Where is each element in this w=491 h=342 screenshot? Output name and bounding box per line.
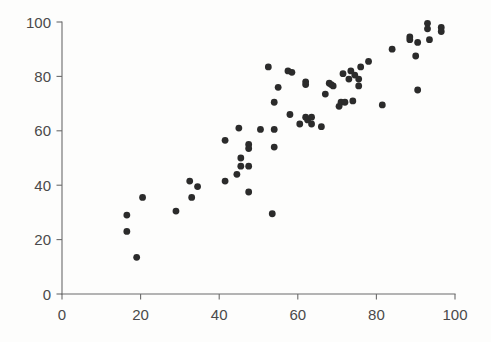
scatter-point: [222, 137, 229, 144]
scatter-point: [245, 145, 252, 152]
scatter-point: [271, 126, 278, 133]
scatter-point: [349, 97, 356, 104]
scatter-point: [265, 63, 272, 70]
scatter-point: [308, 114, 315, 121]
x-axis-tick-label: 20: [132, 306, 149, 323]
scatter-point: [355, 76, 362, 83]
y-axis-tick-label: 20: [34, 231, 51, 248]
x-axis-tick-label: 100: [442, 306, 467, 323]
y-axis-tick-label: 100: [26, 14, 51, 31]
scatter-point: [318, 123, 325, 130]
scatter-point: [287, 111, 294, 118]
scatter-point: [406, 36, 413, 43]
axis-ticks: [57, 22, 456, 300]
scatter-point: [345, 76, 352, 83]
scatter-point: [194, 183, 201, 190]
scatter-point: [257, 126, 264, 133]
scatter-point: [237, 155, 244, 162]
scatter-point: [296, 121, 303, 128]
scatter-point: [133, 254, 140, 261]
y-axis-tick-label: 80: [34, 68, 51, 85]
scatter-point: [414, 87, 421, 94]
scatter-point: [379, 102, 386, 109]
scatter-point: [330, 83, 337, 90]
x-axis-tick-label: 60: [289, 306, 306, 323]
scatter-point: [271, 144, 278, 151]
scatter-point: [302, 81, 309, 88]
y-axis-tick-label: 0: [43, 286, 51, 303]
scatter-point: [271, 99, 278, 106]
scatter-point: [357, 63, 364, 70]
scatter-point: [233, 171, 240, 178]
scatter-point: [123, 228, 130, 235]
scatter-point: [188, 194, 195, 201]
data-points: [123, 20, 444, 261]
x-axis-tick-label: 80: [368, 306, 385, 323]
scatter-point: [269, 210, 276, 217]
axes: [62, 22, 455, 294]
scatter-point: [342, 99, 349, 106]
scatter-point: [426, 36, 433, 43]
scatter-point: [322, 91, 329, 98]
scatter-point: [275, 84, 282, 91]
x-axis-tick-label: 40: [211, 306, 228, 323]
scatter-point: [355, 83, 362, 90]
scatter-point: [340, 70, 347, 77]
scatter-point: [289, 69, 296, 76]
y-axis-tick-label: 60: [34, 122, 51, 139]
scatter-point: [438, 28, 445, 35]
scatter-point: [424, 25, 431, 32]
plot-area: 020406080100020406080100: [0, 0, 491, 342]
scatter-point: [235, 125, 242, 132]
scatter-plot-figure: 020406080100020406080100: [0, 0, 491, 342]
x-axis-tick-label: 0: [58, 306, 66, 323]
scatter-point: [173, 208, 180, 215]
scatter-point: [414, 39, 421, 46]
scatter-point: [245, 189, 252, 196]
scatter-point: [186, 178, 193, 185]
scatter-point: [365, 58, 372, 65]
scatter-point: [245, 163, 252, 170]
scatter-point: [412, 53, 419, 60]
scatter-point: [389, 46, 396, 53]
scatter-point: [237, 163, 244, 170]
scatter-point: [123, 212, 130, 219]
scatter-point: [308, 121, 315, 128]
y-axis-tick-label: 40: [34, 177, 51, 194]
scatter-point: [222, 178, 229, 185]
scatter-point: [139, 194, 146, 201]
